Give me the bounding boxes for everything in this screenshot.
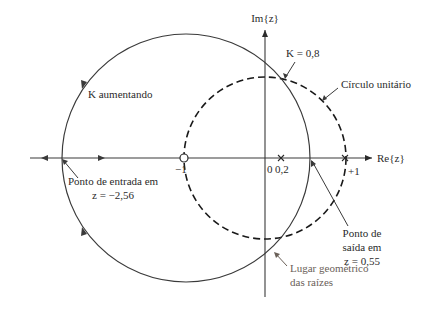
zero-marker-icon	[180, 154, 188, 162]
exit-point-label-line1: Ponto de	[343, 227, 382, 239]
real-axis-label: Re{z}	[377, 152, 405, 164]
tick-plus-one: +1	[348, 165, 360, 177]
tick-zero-two: 0,2	[275, 163, 289, 175]
root-locus-label-line2: das raízes	[290, 276, 333, 288]
k-increasing-label: K aumentando	[88, 88, 153, 100]
real-axis-arrow-right-icon	[98, 155, 105, 161]
k-value-label: K = 0,8	[286, 47, 320, 59]
unit-circle-label: Círculo unitário	[341, 78, 411, 90]
root-locus-label-line1: Lugar geométrico	[290, 262, 369, 274]
exit-point-leader	[312, 161, 348, 226]
tick-minus-one: −1	[175, 163, 187, 175]
real-axis-arrow-left-icon	[41, 155, 48, 161]
imag-axis-label: Im{z}	[251, 12, 279, 24]
tick-zero: 0	[267, 163, 273, 175]
exit-point-label-line2: saída em	[343, 241, 382, 253]
entry-point-label-line2: z = −2,56	[92, 189, 135, 201]
entry-point-label-line1: Ponto de entrada em	[68, 175, 159, 187]
root-locus-diagram: Im{z} Re{z} −1 0 0,2 +1 K aumentando K =…	[0, 0, 423, 309]
